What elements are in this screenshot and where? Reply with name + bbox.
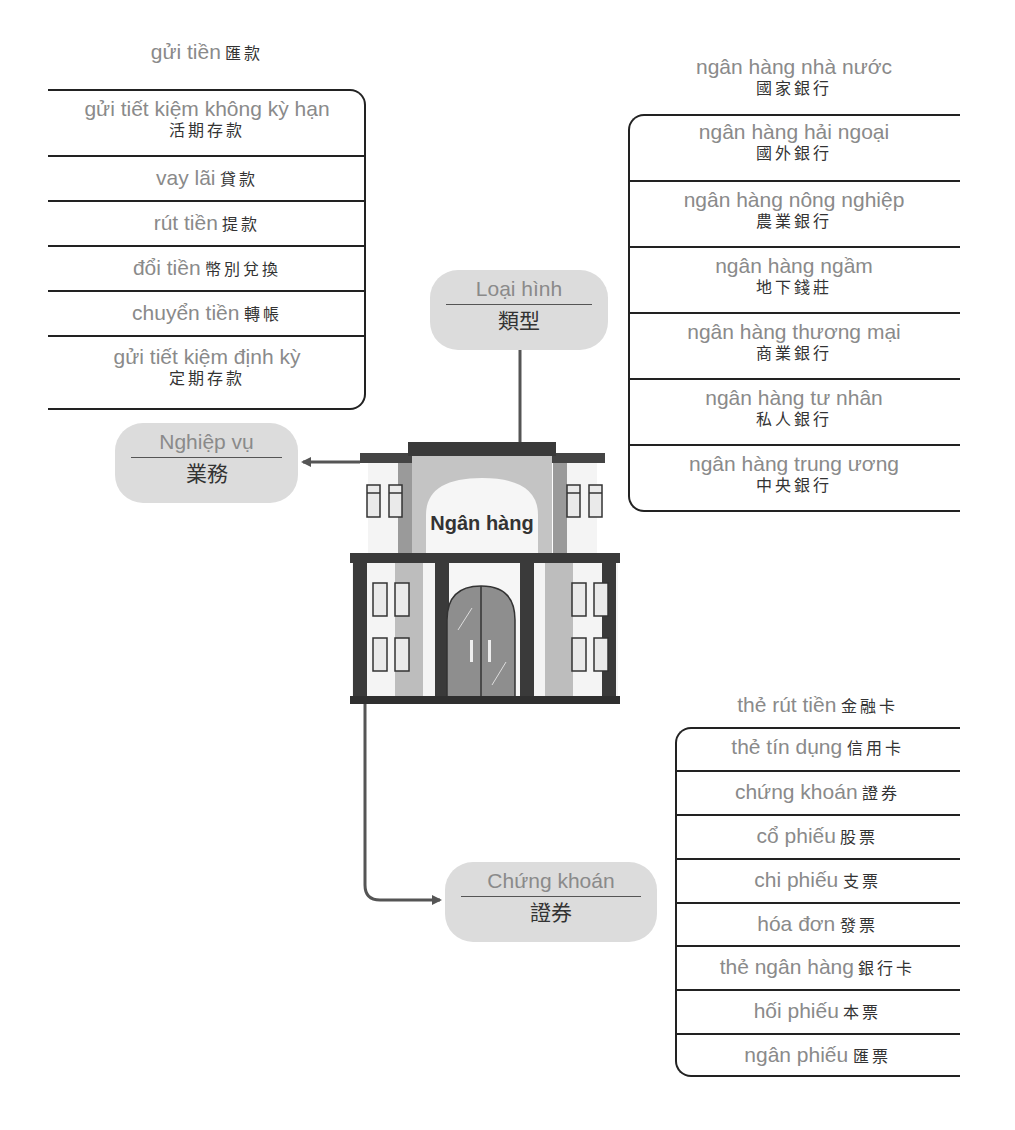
list-item: hóa đơn 發票 [675,902,960,945]
list-item: thẻ ngân hàng 銀行卡 [675,945,960,989]
types-header: ngân hàng nhà nước國家銀行 [628,55,960,99]
list-item: rút tiền 提款 [48,200,366,245]
branch-types[interactable]: Loại hình 類型 [430,270,608,350]
list-item: ngân phiếu 匯票 [675,1033,960,1076]
list-item: vay lãi 貸款 [48,155,366,200]
divider [131,457,282,458]
branch-securities-vn: Chứng khoán [445,868,657,894]
list-item: ngân hàng thương mại商業銀行 [628,312,960,378]
divider [446,304,592,305]
list-item: ngân hàng trung ương中央銀行 [628,444,960,510]
branch-types-zh: 類型 [430,309,608,333]
list-item: ngân hàng ngầm地下錢莊 [628,246,960,312]
list-item: ngân hàng hải ngoại國外銀行 [628,114,960,180]
securities-list: thẻ rút tiền 金融卡 thẻ tín dụng 信用卡 chứng … [675,690,960,1078]
branch-securities-zh: 證券 [445,901,657,925]
list-item: chi phiếu 支票 [675,858,960,902]
branch-operations[interactable]: Nghiệp vụ 業務 [115,423,298,503]
list-item: thẻ tín dụng 信用卡 [675,727,960,770]
securities-header: thẻ rút tiền 金融卡 [675,693,960,717]
arrow-to-securities [365,703,440,900]
bank-building-icon: Ngân hàng [340,440,625,705]
list-item: gửi tiết kiệm không kỳ hạn活期存款 [48,89,366,155]
list-item: hối phiếu 本票 [675,989,960,1033]
operations-list: gửi tiền 匯款 gửi tiết kiệm không kỳ hạn活期… [48,30,366,408]
branch-operations-zh: 業務 [115,462,298,486]
types-list: ngân hàng nhà nước國家銀行 ngân hàng hải ngo… [628,55,960,513]
list-item: đổi tiền 幣別兌換 [48,245,366,290]
branch-types-vn: Loại hình [430,276,608,302]
list-item: chứng khoán 證券 [675,770,960,814]
bank-sign: Ngân hàng [430,512,533,534]
list-item: cổ phiếu 股票 [675,814,960,858]
list-item: ngân hàng nông nghiệp農業銀行 [628,180,960,246]
list-item: chuyển tiền 轉帳 [48,290,366,335]
operations-header: gửi tiền 匯款 [48,40,366,64]
divider [461,896,641,897]
list-item: ngân hàng tư nhân私人銀行 [628,378,960,444]
branch-securities[interactable]: Chứng khoán 證券 [445,862,657,942]
list-item: gửi tiết kiệm định kỳ定期存款 [48,335,366,405]
branch-operations-vn: Nghiệp vụ [115,429,298,455]
